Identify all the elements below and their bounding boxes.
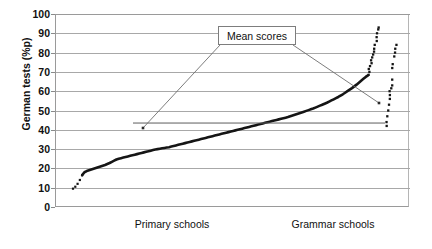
chart-figure: German tests (%p) 1009080706050403020100… xyxy=(0,0,432,249)
x-axis-label-grammar-schools: Grammar schools xyxy=(273,218,393,230)
chart-canvas xyxy=(0,0,432,249)
mean-scores-callout-label: Mean scores xyxy=(227,30,287,42)
callout-leader-lines xyxy=(142,45,381,129)
x-axis-label-primary-schools: Primary schools xyxy=(112,218,232,230)
series-grammar-second-cluster xyxy=(385,44,397,127)
series-grammar-upper-cluster xyxy=(367,26,379,76)
series-primary-schools-curve xyxy=(72,75,368,189)
mean-scores-callout: Mean scores xyxy=(218,26,296,45)
